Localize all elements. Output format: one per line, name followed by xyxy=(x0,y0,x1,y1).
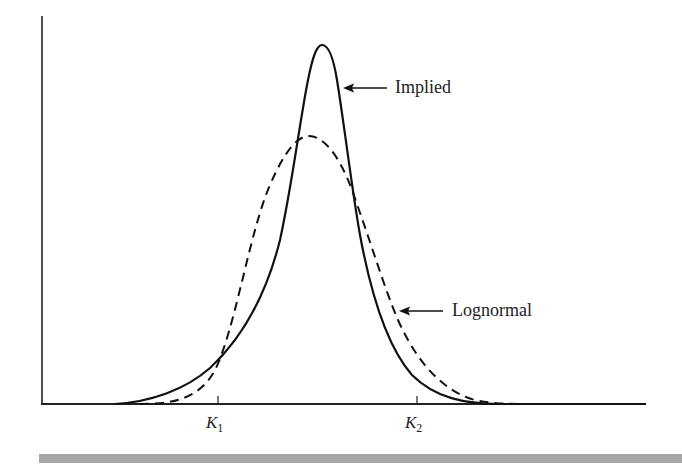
k1-sub: 1 xyxy=(217,421,223,435)
lognormal-arrow xyxy=(399,307,443,316)
k2-main: K xyxy=(405,413,416,432)
distribution-chart xyxy=(0,0,682,466)
bottom-rule-bar xyxy=(39,454,682,463)
lognormal-label: Lognormal xyxy=(452,301,532,319)
implied-curve xyxy=(115,45,646,404)
k1-tick-label: K1 xyxy=(206,414,223,434)
lognormal-curve xyxy=(140,136,522,404)
k1-main: K xyxy=(206,413,217,432)
k2-sub: 2 xyxy=(416,421,422,435)
implied-label: Implied xyxy=(395,78,451,96)
k2-tick-label: K2 xyxy=(405,414,422,434)
implied-arrow xyxy=(343,84,387,93)
